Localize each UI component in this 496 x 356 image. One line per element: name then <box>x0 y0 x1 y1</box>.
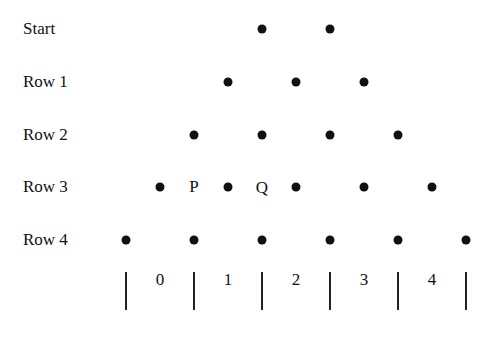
peg-dot <box>224 183 233 192</box>
peg-dot <box>190 131 199 140</box>
peg-dot <box>394 236 403 245</box>
row-label-1: Row 1 <box>23 72 68 92</box>
bin-divider <box>125 272 127 310</box>
bin-label-1: 1 <box>224 270 233 290</box>
row-label-2: Row 2 <box>23 125 68 145</box>
row-label-3: Row 3 <box>23 177 68 197</box>
peg-dot <box>122 236 131 245</box>
peg-dot <box>360 183 369 192</box>
peg-dot <box>292 78 301 87</box>
bin-divider <box>397 272 399 310</box>
dot-triangle-diagram: Start Row 1 Row 2 Row 3 Row 4 P Q 0 1 2 … <box>0 0 496 356</box>
bin-label-2: 2 <box>292 270 301 290</box>
point-label-p: P <box>189 177 198 197</box>
peg-dot <box>326 25 335 34</box>
peg-dot <box>326 236 335 245</box>
row-label-start: Start <box>23 19 55 39</box>
peg-dot <box>428 183 437 192</box>
peg-dot <box>224 78 233 87</box>
peg-dot <box>190 236 199 245</box>
row-label-4: Row 4 <box>23 230 68 250</box>
bin-label-3: 3 <box>360 270 369 290</box>
peg-dot <box>292 183 301 192</box>
bin-divider <box>465 272 467 310</box>
peg-dot <box>258 131 267 140</box>
peg-dot <box>360 78 369 87</box>
peg-dot <box>394 131 403 140</box>
bin-divider <box>261 272 263 310</box>
point-label-q: Q <box>256 178 268 198</box>
peg-dot <box>258 236 267 245</box>
peg-dot <box>462 236 471 245</box>
bin-divider <box>193 272 195 310</box>
peg-dot <box>326 131 335 140</box>
bin-label-4: 4 <box>428 270 437 290</box>
bin-divider <box>329 272 331 310</box>
bin-label-0: 0 <box>156 270 165 290</box>
peg-dot <box>156 183 165 192</box>
peg-dot <box>258 25 267 34</box>
